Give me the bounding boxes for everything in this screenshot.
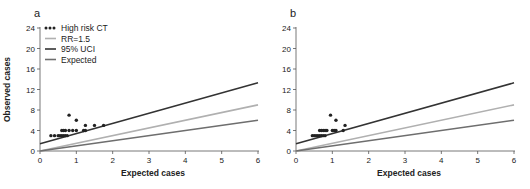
x-tick-label: 1 — [74, 156, 79, 165]
y-tick-label: 8 — [31, 106, 36, 115]
data-point — [66, 134, 69, 137]
x-tick-label: 6 — [512, 156, 517, 165]
legend-marker — [49, 27, 52, 30]
y-tick-label: 4 — [31, 127, 36, 136]
y-tick-label: 20 — [26, 45, 35, 54]
data-point — [343, 124, 346, 127]
x-axis-label: Expected cases — [377, 168, 441, 178]
x-tick-label: 0 — [38, 156, 43, 165]
figure: a048121620240123456Expected casesObserve… — [0, 0, 530, 189]
y-tick-label: 0 — [31, 147, 36, 156]
data-point — [102, 124, 105, 127]
y-tick-label: 12 — [282, 86, 291, 95]
series-line-95-uci — [40, 83, 258, 144]
y-tick-label: 0 — [287, 147, 292, 156]
x-tick-label: 3 — [403, 156, 408, 165]
data-point — [84, 124, 87, 127]
x-axis-label: Expected cases — [121, 168, 185, 178]
y-tick-label: 4 — [287, 127, 292, 136]
data-point — [71, 129, 74, 132]
series-line-rr-1-5 — [296, 105, 514, 151]
legend-marker — [53, 27, 56, 30]
data-point — [329, 113, 332, 116]
panel-a: a048121620240123456Expected casesObserve… — [2, 7, 261, 178]
y-tick-label: 16 — [282, 65, 291, 74]
x-tick-label: 6 — [256, 156, 261, 165]
legend: High risk CTRR=1.595% UCIExpected — [45, 23, 108, 65]
data-point — [75, 129, 78, 132]
data-point — [334, 129, 337, 132]
data-point — [84, 129, 87, 132]
legend-label: Expected — [61, 55, 97, 65]
x-tick-label: 4 — [439, 156, 444, 165]
legend-label: 95% UCI — [61, 44, 95, 54]
x-tick-label: 0 — [294, 156, 299, 165]
x-tick-label: 3 — [147, 156, 152, 165]
data-point — [67, 129, 70, 132]
y-tick-label: 24 — [282, 24, 291, 33]
x-tick-label: 1 — [330, 156, 335, 165]
series-line-95-uci — [296, 83, 514, 144]
legend-marker — [45, 27, 48, 30]
data-point — [323, 134, 326, 137]
legend-label: High risk CT — [61, 23, 108, 33]
data-point — [64, 129, 67, 132]
y-axis-label: Observed cases — [2, 57, 12, 122]
panel-label: b — [290, 7, 296, 19]
legend-label: RR=1.5 — [61, 34, 90, 44]
panel-b: b048121620240123456Expected cases — [282, 7, 517, 178]
data-point — [49, 134, 52, 137]
x-tick-label: 2 — [110, 156, 115, 165]
x-tick-label: 5 — [475, 156, 480, 165]
y-tick-label: 20 — [282, 45, 291, 54]
data-point — [325, 129, 328, 132]
x-tick-label: 2 — [366, 156, 371, 165]
series-line-expected — [40, 120, 258, 151]
data-point — [67, 113, 70, 116]
y-tick-label: 16 — [26, 65, 35, 74]
data-point — [334, 119, 337, 122]
y-tick-label: 12 — [26, 86, 35, 95]
panel-label: a — [34, 7, 41, 19]
data-point — [75, 119, 78, 122]
y-tick-label: 24 — [26, 24, 35, 33]
data-point — [93, 124, 96, 127]
series-line-expected — [296, 120, 514, 151]
series-line-rr-1-5 — [40, 105, 258, 151]
x-tick-label: 4 — [183, 156, 188, 165]
x-tick-label: 5 — [219, 156, 224, 165]
data-point — [342, 129, 345, 132]
data-point — [53, 134, 56, 137]
y-tick-label: 8 — [287, 106, 292, 115]
